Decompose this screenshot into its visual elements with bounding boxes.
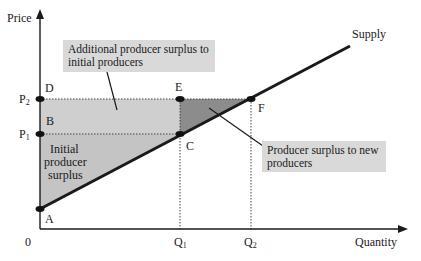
- marker-p1: [36, 131, 45, 137]
- marker-a: [36, 206, 45, 212]
- q1-label: Q1: [174, 235, 187, 250]
- point-e-label: E: [175, 80, 182, 94]
- point-d-label: D: [45, 81, 54, 95]
- initial-surplus-line2: producer: [44, 155, 87, 169]
- marker-c: [176, 131, 185, 137]
- initial-surplus-line3: surplus: [48, 168, 83, 182]
- q2-label: Q2: [244, 235, 257, 250]
- origin-label: 0: [25, 235, 31, 249]
- marker-e: [176, 96, 185, 102]
- marker-p2: [36, 96, 45, 102]
- x-axis-arrow-icon: [398, 225, 408, 233]
- new-callout-line1: Producer surplus to new: [267, 144, 379, 157]
- p1-label: P1: [19, 127, 30, 142]
- y-axis-label: Price: [7, 11, 32, 25]
- y-axis-arrow-icon: [36, 9, 44, 19]
- x-axis-label: Quantity: [355, 235, 397, 249]
- initial-surplus-line1: Initial: [50, 142, 79, 156]
- new-callout-pointer: [209, 108, 263, 146]
- point-f-label: F: [258, 101, 265, 115]
- additional-callout-line1: Additional producer surplus to: [68, 43, 209, 56]
- point-b-label: B: [46, 114, 54, 128]
- point-a-label: A: [45, 212, 54, 226]
- new-callout-line2: producers: [267, 157, 313, 170]
- point-c-label: C: [186, 139, 194, 153]
- additional-callout-line2: initial producers: [68, 56, 144, 69]
- p2-label: P2: [19, 92, 30, 107]
- supply-label: Supply: [352, 27, 386, 41]
- producer-surplus-diagram: Additional producer surplus to initial p…: [0, 0, 421, 261]
- additional-producer-surplus-region: [40, 99, 180, 134]
- marker-f: [247, 96, 256, 102]
